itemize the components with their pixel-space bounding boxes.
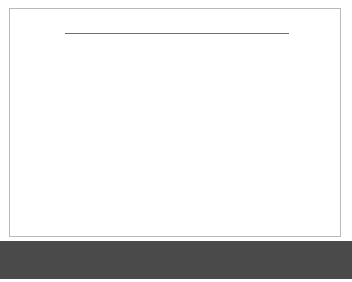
x-axis-line <box>65 33 289 34</box>
chart-plot-area <box>10 9 340 236</box>
figure-caption-text <box>16 245 344 259</box>
figure-frame <box>9 8 341 237</box>
figure-caption-bar <box>0 241 352 279</box>
